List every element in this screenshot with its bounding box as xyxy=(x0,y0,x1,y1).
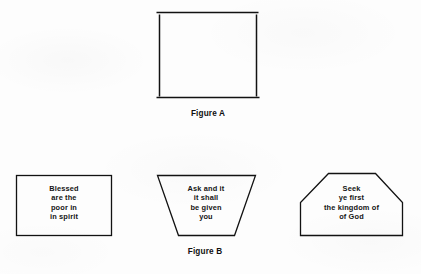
rectangle-text-line: Blessed xyxy=(16,184,112,193)
figure-a-caption: Figure A xyxy=(158,109,258,118)
trapezoid-text-line: it shall xyxy=(157,193,255,202)
pentagon-text-line: ye first xyxy=(300,193,403,202)
rectangle-text: Blessed are the poor in in spirit xyxy=(16,184,112,222)
diagram-page: Blessed are the poor in in spirit Ask an… xyxy=(0,0,421,274)
trapezoid-text: Ask and it it shall be given you xyxy=(157,184,255,222)
trapezoid-text-line: you xyxy=(157,212,255,221)
figure-shapes-layer xyxy=(0,0,421,274)
rectangle-text-line: poor in xyxy=(16,203,112,212)
pentagon-text-line: the kingdom of xyxy=(300,203,403,212)
figure-a-square xyxy=(157,13,260,98)
rectangle-text-line: are the xyxy=(16,193,112,202)
pentagon-text: Seek ye first the kingdom of of God xyxy=(300,184,403,222)
pentagon-text-line: of God xyxy=(300,212,403,221)
pentagon-text-line: Seek xyxy=(300,184,403,193)
trapezoid-text-line: be given xyxy=(157,203,255,212)
figure-b-caption: Figure B xyxy=(155,247,255,256)
trapezoid-text-line: Ask and it xyxy=(157,184,255,193)
rectangle-text-line: in spirit xyxy=(16,212,112,221)
